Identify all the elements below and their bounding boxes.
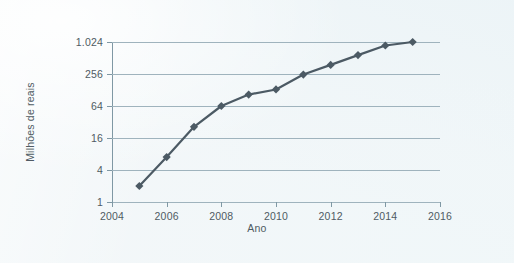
data-point-marker — [272, 85, 280, 93]
x-tick-label: 2004 — [100, 210, 124, 222]
y-tick-label: 256 — [85, 68, 103, 80]
y-tick-label: 1 — [97, 196, 103, 208]
x-tick-label: 2010 — [264, 210, 288, 222]
chart-figure: Milhões de reais 1416642561.024 20042006… — [0, 0, 514, 263]
y-tick-label: 1.024 — [76, 36, 103, 48]
data-point-marker — [327, 61, 335, 69]
plot-area: 1416642561.024 2004200620082010201220142… — [112, 42, 440, 202]
x-tick — [276, 202, 277, 207]
y-tick-label: 16 — [91, 132, 103, 144]
data-series — [112, 42, 440, 202]
data-point-marker — [245, 90, 253, 98]
y-tick-label: 64 — [91, 100, 103, 112]
x-tick-label: 2014 — [373, 210, 397, 222]
y-tick-label: 4 — [97, 164, 103, 176]
x-axis-title: Ano — [0, 222, 514, 234]
y-axis-title: Milhões de reais — [24, 82, 36, 162]
x-tick — [167, 202, 168, 207]
x-tick-label: 2008 — [209, 210, 233, 222]
x-tick-label: 2016 — [428, 210, 452, 222]
data-point-marker — [354, 51, 362, 59]
data-point-marker — [409, 38, 417, 46]
x-tick-label: 2012 — [319, 210, 343, 222]
x-tick — [112, 202, 113, 207]
data-point-marker — [381, 41, 389, 49]
x-tick — [331, 202, 332, 207]
series-line — [139, 42, 412, 186]
x-tick — [385, 202, 386, 207]
x-tick — [440, 202, 441, 207]
data-point-marker — [299, 70, 307, 78]
x-tick-label: 2006 — [155, 210, 179, 222]
x-tick — [221, 202, 222, 207]
